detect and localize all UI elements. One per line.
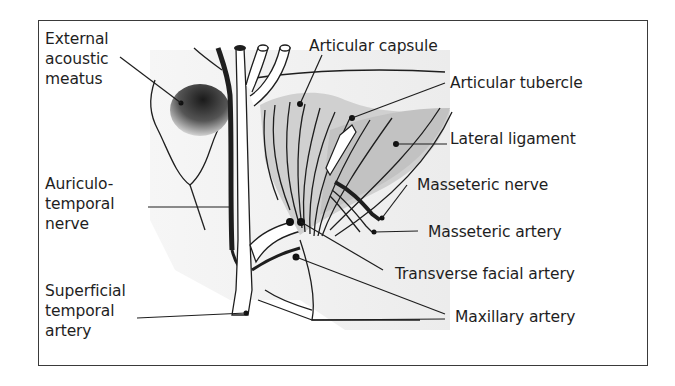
label-line: temporal [45,301,126,321]
transverse-facial-dot-1 [286,218,294,226]
label-line: Auriculo- [45,174,114,194]
label-line: External [45,29,109,49]
label-articular-capsule: Articular capsule [309,36,438,56]
label-masseteric-nerve: Masseteric nerve [417,175,548,195]
label-superficial-temporal-artery: Superficial temporal artery [45,281,126,341]
label-masseteric-artery: Masseteric artery [428,222,562,242]
label-external-acoustic-meatus: External acoustic meatus [45,29,109,89]
label-lateral-ligament: Lateral ligament [450,129,576,149]
leader-superficial-temporal-artery [137,313,246,318]
label-articular-tubercle: Articular tubercle [450,73,583,93]
label-maxillary-artery: Maxillary artery [455,307,575,327]
label-line: Superficial [45,281,126,301]
label-line: temporal [45,194,114,214]
label-line: meatus [45,69,109,89]
label-line: artery [45,321,126,341]
label-line: acoustic [45,49,109,69]
label-auriculotemporal-nerve: Auriculo- temporal nerve [45,174,114,234]
external-acoustic-meatus-shape [170,84,230,136]
label-line: nerve [45,214,114,234]
label-transverse-facial-artery: Transverse facial artery [395,264,575,284]
